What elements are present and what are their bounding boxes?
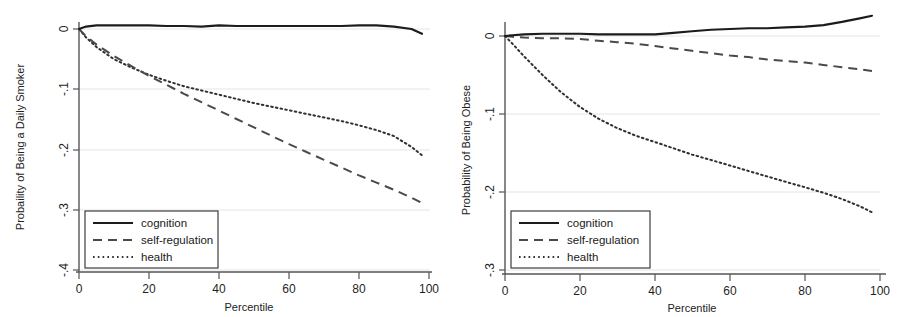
y-tick-label-m1: -.1 xyxy=(57,82,71,96)
right-x-ticks xyxy=(505,274,880,281)
left-x-tick-labels: 0 20 40 60 80 100 xyxy=(76,282,440,296)
x-tick-label-80: 80 xyxy=(798,284,812,298)
x-tick-label-100: 100 xyxy=(419,282,439,296)
left-legend[interactable]: cognition self-regulation health xyxy=(85,211,218,268)
x-tick-label-80: 80 xyxy=(352,282,366,296)
y-axis-title: Probaility of Being a Daily Smoker xyxy=(14,64,26,231)
x-tick-label-60: 60 xyxy=(723,284,737,298)
right-y-ticks xyxy=(499,36,505,270)
y-tick-label-m4: -.4 xyxy=(57,263,71,277)
x-axis-title: Percentile xyxy=(668,302,717,314)
x-tick-label-40: 40 xyxy=(212,282,226,296)
left-panel-svg: 0 -.1 -.2 -.3 -.4 0 20 40 60 80 100 xyxy=(0,0,450,317)
x-tick-label-40: 40 xyxy=(648,284,662,298)
legend-label-cognition: cognition xyxy=(567,217,613,229)
y-tick-label-m1: -.1 xyxy=(483,107,497,121)
x-tick-label-60: 60 xyxy=(282,282,296,296)
legend-label-self-regulation: self-regulation xyxy=(567,234,639,246)
y-tick-label-m3: -.3 xyxy=(57,203,71,217)
legend-label-self-regulation: self-regulation xyxy=(141,234,213,246)
x-tick-label-20: 20 xyxy=(573,284,587,298)
legend-label-health: health xyxy=(141,251,172,263)
right-y-tick-labels: 0 -.1 -.2 -.3 xyxy=(483,32,497,277)
series-line-self-regulation xyxy=(505,36,872,71)
left-series-group xyxy=(79,25,422,203)
legend-label-cognition: cognition xyxy=(141,217,187,229)
left-y-ticks xyxy=(73,29,79,270)
left-x-ticks xyxy=(79,272,429,279)
left-y-tick-labels: 0 -.1 -.2 -.3 -.4 xyxy=(57,25,71,277)
figure-container: 0 -.1 -.2 -.3 -.4 0 20 40 60 80 100 xyxy=(0,0,901,317)
x-tick-label-0: 0 xyxy=(76,282,83,296)
legend-label-health: health xyxy=(567,251,598,263)
series-line-cognition xyxy=(79,25,422,33)
right-panel-svg: 0 -.1 -.2 -.3 0 20 40 60 80 100 xyxy=(450,0,901,317)
y-tick-label-m2: -.2 xyxy=(483,185,497,199)
y-axis-title: Probability of Being Obese xyxy=(460,85,472,215)
right-x-tick-labels: 0 20 40 60 80 100 xyxy=(502,284,891,298)
y-tick-label-0: 0 xyxy=(57,25,71,32)
series-line-health xyxy=(79,29,422,155)
chart-panel-obese: 0 -.1 -.2 -.3 0 20 40 60 80 100 xyxy=(450,0,900,317)
series-line-self-regulation xyxy=(79,29,422,203)
series-line-cognition xyxy=(505,16,872,36)
x-tick-label-0: 0 xyxy=(502,284,509,298)
x-axis-title: Percentile xyxy=(225,301,274,313)
x-tick-label-20: 20 xyxy=(142,282,156,296)
chart-panel-smoker: 0 -.1 -.2 -.3 -.4 0 20 40 60 80 100 xyxy=(0,0,450,317)
y-tick-label-0: 0 xyxy=(483,32,497,39)
y-tick-label-m2: -.2 xyxy=(57,143,71,157)
y-tick-label-m3: -.3 xyxy=(483,263,497,277)
right-legend[interactable]: cognition self-regulation health xyxy=(511,211,650,268)
series-line-health xyxy=(505,36,872,212)
x-tick-label-100: 100 xyxy=(870,284,890,298)
